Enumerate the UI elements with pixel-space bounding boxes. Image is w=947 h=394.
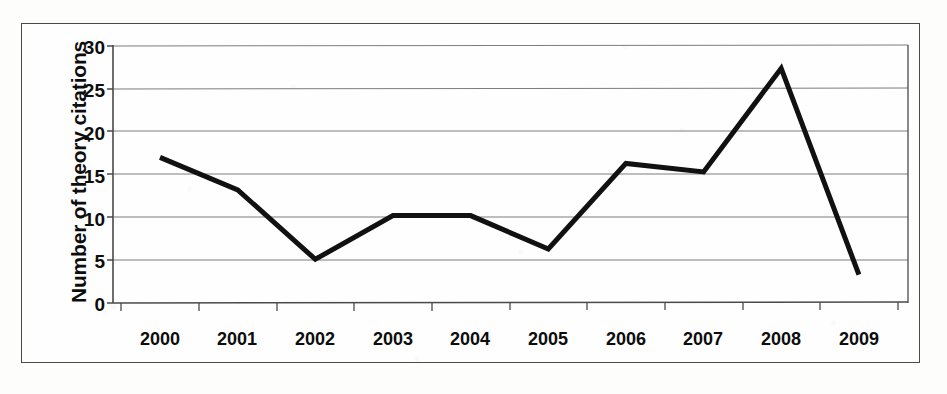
gridlines — [113, 45, 908, 260]
data-series-line — [160, 68, 859, 274]
plot-area — [0, 0, 947, 394]
y-axis-ticks — [107, 46, 113, 303]
chart-figure: Number of theory citations 30 25 20 15 1… — [0, 0, 947, 394]
gridline-30 — [113, 45, 908, 46]
